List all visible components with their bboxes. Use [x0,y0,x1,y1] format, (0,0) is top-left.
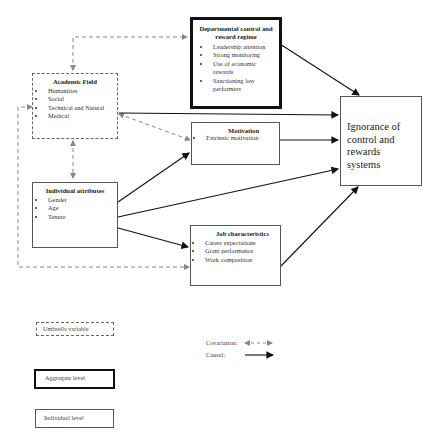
node-title: Job characteristics [194,230,277,238]
node-title: Academic Field [35,78,115,86]
node-academic-field: Academic Field Humanities Social Technic… [32,73,118,139]
edge-academic-motivation [119,114,190,140]
legend-aggregate-box: Aggregate level [34,369,115,389]
node-motivation: Motivation Extrinsic motivation [191,122,280,165]
node-items: Humanities Social Technical and Natural … [35,87,115,121]
node-title: Ignorance of control and rewards systems [347,121,416,171]
node-departmental-control: Departmental control and reward regime L… [190,17,282,109]
node-item: Work composition [203,256,277,264]
edge-job-outcome [280,187,358,267]
node-item: Strong monitoring [211,51,275,59]
edge-individual-outcome [118,169,338,217]
legend-causal-label: Causal: [206,351,225,358]
node-item: Career expectations [203,239,277,247]
legend-aggregate-label: Aggregate level [45,374,85,381]
node-items: Career expectations Grant performance Wo… [194,239,277,264]
node-item: Use of economic rewards [211,60,275,77]
node-individual-attributes: Individual attributes Gender Age Tenure [32,182,118,248]
legend-covariation-label: Covariation: [206,339,237,346]
node-item: Extrinsic motivation [204,134,276,142]
edge-academic-departmental [73,37,187,70]
edge-academic-outcome [119,113,338,115]
legend-individual-label: Individual level [44,414,84,421]
edge-individual-job [118,228,188,247]
legend-umbrella-label: Umbrella variable [43,325,89,332]
node-item: Technical and Natural [46,104,115,112]
legend-umbrella-box: Umbrella variable [36,322,114,336]
edge-individual-motivation [118,153,189,202]
edge-departmental-outcome [280,44,359,95]
node-item: Humanities [46,87,115,95]
node-items: Gender Age Tenure [35,196,115,221]
node-outcome: Ignorance of control and rewards systems [340,96,422,186]
node-title: Individual attributes [35,187,115,195]
legend-individual-box: Individual level [35,409,114,428]
node-item: Medical [46,112,115,120]
node-items: Leadership attention Strong monitoring U… [197,43,275,93]
legend-line-samples [245,343,273,355]
node-title: Departmental control and reward regime [197,25,275,41]
node-items: Extrinsic motivation [195,134,276,142]
node-item: Social [46,95,115,103]
node-job-characteristics: Job characteristics Career expectations … [190,225,281,286]
node-item: Tenure [46,213,115,221]
node-item: Age [46,204,115,212]
node-item: Grant performance [203,247,277,255]
node-item: Gender [46,196,115,204]
node-item: Leadership attention [211,43,275,51]
node-item: Sanctioning low performers [211,77,275,94]
